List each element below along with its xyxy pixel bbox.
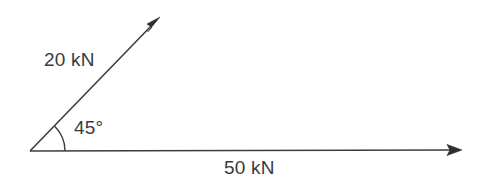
diagonal-force-label: 20 kN <box>44 50 95 69</box>
angle-label: 45° <box>74 118 103 137</box>
horizontal-force-label: 50 kN <box>224 158 275 177</box>
angle-arc-icon <box>55 126 65 151</box>
diagonal-arrowhead-icon <box>147 17 160 32</box>
force-vector-diagram: 20 kN 45° 50 kN <box>0 0 484 190</box>
horizontal-vector-line <box>30 150 455 151</box>
